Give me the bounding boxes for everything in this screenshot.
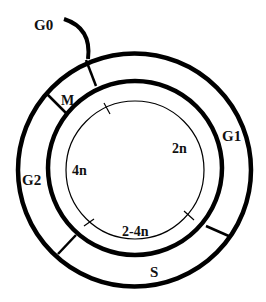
label-m: M (61, 93, 74, 108)
label-g2: G2 (22, 172, 41, 188)
label-4n: 4n (72, 163, 87, 178)
label-s: S (150, 264, 158, 280)
label-g1: G1 (222, 128, 241, 144)
label-2-4n: 2-4n (122, 224, 149, 239)
g0-exit-curve (64, 19, 89, 59)
divider-s-g1 (206, 226, 231, 237)
cell-cycle-diagram: G0 M G1 S G2 2n 4n 2-4n (0, 0, 266, 302)
divider-g2-s (58, 235, 76, 254)
outer-ring (18, 54, 251, 287)
label-g0: G0 (34, 17, 53, 33)
label-2n: 2n (172, 141, 187, 156)
